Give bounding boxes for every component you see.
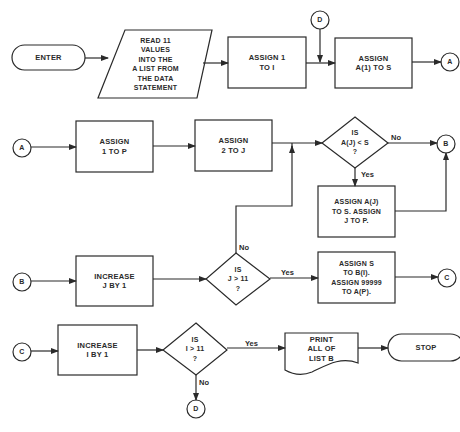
increase-i-label: INCREASE I BY 1: [58, 325, 137, 375]
connector-a-in-label: A: [13, 139, 31, 157]
edge-i-yes-label: Yes: [245, 339, 258, 348]
connector-c-in-label: C: [13, 343, 31, 361]
connector-d-bottom-label: D: [187, 400, 205, 418]
connector-a-out-label: A: [441, 53, 459, 71]
increase-j-label: INCREASE J BY 1: [76, 256, 153, 306]
read-values-label: READ 11 VALUES INTO THE A LIST FROM THE …: [108, 30, 203, 98]
connector-b-in-label: B: [13, 273, 31, 291]
assign-aj-to-s-label: ASSIGN A(J) TO S. ASSIGN J TO P.: [318, 186, 395, 237]
edge-aj-yes-label: Yes: [361, 170, 374, 179]
stop-label: STOP: [388, 334, 460, 361]
print-list-b-label: PRINT ALL OF LIST B: [285, 333, 358, 365]
decision-j-gt-11-label: IS J > 11 ?: [206, 253, 270, 305]
assign-1-to-p-label: ASSIGN 1 TO P: [76, 121, 153, 172]
edge-aj-no-label: No: [391, 133, 401, 142]
edge-j-no-label: No: [239, 243, 249, 252]
connector-c-out-label: C: [438, 269, 456, 287]
connector-b-out-label: B: [437, 135, 455, 153]
decision-aj-lt-s-label: IS A(J) < S ?: [322, 117, 388, 168]
assign-s-to-bi-label: ASSIGN S TO B(I). ASSIGN 99999 TO A(P).: [318, 252, 395, 303]
connector-d-top-label: D: [311, 11, 329, 29]
decision-i-gt-11-label: IS I > 11 ?: [163, 323, 227, 375]
edge-j-yes-label: Yes: [281, 268, 294, 277]
enter-label: ENTER: [12, 45, 85, 70]
assign-a1-to-s-label: ASSIGN A(1) TO S: [335, 38, 412, 88]
edge-i-no-label: No: [199, 378, 209, 387]
assign-1-to-i-label: ASSIGN 1 TO I: [228, 37, 306, 88]
assign-2-to-j-label: ASSIGN 2 TO J: [195, 120, 272, 171]
